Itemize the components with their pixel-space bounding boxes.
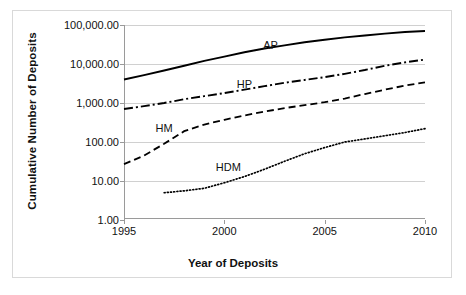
series-line-hp: [124, 60, 425, 109]
series-line-ap: [124, 31, 425, 79]
y-tick-label: 100.00: [85, 136, 119, 148]
y-axis-title: Cumulative Number of Deposits: [26, 16, 38, 226]
x-tick-mark: [325, 220, 326, 224]
series-label-ap: AP: [263, 39, 278, 51]
series-line-hdm: [164, 129, 425, 193]
x-axis-title: Year of Deposits: [13, 257, 453, 269]
y-tick-label: 1,000.00: [76, 97, 119, 109]
chart-figure: Cumulative Number of Deposits Year of De…: [0, 0, 466, 295]
x-tick-mark: [224, 220, 225, 224]
x-tick-label: 2010: [413, 225, 437, 237]
chart-frame: Cumulative Number of Deposits Year of De…: [12, 10, 452, 278]
y-tick-label: 10.00: [91, 175, 119, 187]
y-tick-label: 10,000.00: [70, 58, 119, 70]
series-label-hp: HP: [237, 78, 252, 90]
x-tick-mark: [425, 220, 426, 224]
series-label-hdm: HDM: [216, 161, 241, 173]
y-tick-label: 100,000.00: [64, 19, 119, 31]
plot-area: 1.0010.00100.001,000.0010,000.00100,000.…: [124, 25, 425, 219]
x-tick-label: 2000: [212, 225, 236, 237]
x-tick-label: 2005: [312, 225, 336, 237]
series-label-hm: HM: [156, 122, 173, 134]
x-tick-mark: [124, 220, 125, 224]
x-tick-label: 1995: [112, 225, 136, 237]
